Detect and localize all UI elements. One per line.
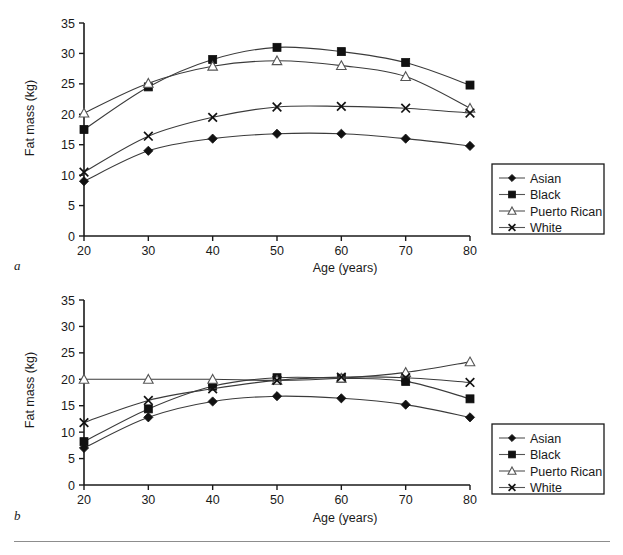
y-tick-label: 15: [61, 138, 75, 152]
cross-icon: [144, 132, 153, 141]
x-tick-label: 20: [77, 493, 91, 507]
y-tick-label: 5: [68, 452, 75, 466]
x-axis-title: Age (years): [313, 261, 378, 275]
legend-label: White: [530, 481, 562, 495]
y-tick-label: 25: [61, 77, 75, 91]
y-tick-label: 25: [61, 346, 75, 360]
series-line: [84, 133, 470, 181]
legend-label: Black: [530, 448, 561, 462]
square-filled-icon: [273, 43, 281, 51]
y-tick-label: 15: [61, 399, 75, 413]
x-tick-label: 60: [334, 244, 348, 258]
y-tick-label: 0: [68, 479, 75, 493]
y-tick-label: 10: [61, 169, 75, 183]
x-tick-label: 50: [270, 493, 284, 507]
square-filled-icon: [509, 451, 516, 458]
x-tick-label: 30: [141, 493, 155, 507]
footer-divider: [14, 541, 610, 542]
legend: AsianBlackPuerto RicanWhite: [492, 164, 604, 235]
square-filled-icon: [80, 126, 88, 134]
x-tick-label: 40: [206, 493, 220, 507]
y-tick-label: 20: [61, 373, 75, 387]
y-tick-label: 30: [61, 320, 75, 334]
x-tick-label: 70: [399, 244, 413, 258]
legend: AsianBlackPuerto RicanWhite: [492, 424, 604, 495]
x-tick-label: 30: [141, 244, 155, 258]
legend-label: Asian: [530, 432, 561, 446]
diamond-filled-icon: [337, 394, 346, 403]
legend-label: Black: [530, 188, 561, 202]
y-axis-title: Fat mass (kg): [23, 80, 37, 156]
diamond-filled-icon: [401, 134, 410, 143]
diamond-filled-icon: [465, 413, 474, 422]
panel-a: a 0510152025303520304050607080Age (years…: [0, 0, 623, 282]
chart-a: 0510152025303520304050607080Age (years)F…: [0, 0, 623, 282]
square-filled-icon: [337, 48, 345, 56]
diamond-filled-icon: [144, 146, 153, 155]
diamond-filled-icon: [272, 392, 281, 401]
diamond-filled-icon: [401, 400, 410, 409]
legend-label: Puerto Rican: [530, 205, 602, 219]
series-line: [84, 396, 470, 448]
diamond-filled-icon: [465, 141, 474, 150]
cross-icon: [144, 396, 153, 405]
y-tick-label: 0: [68, 230, 75, 244]
series-line: [84, 61, 470, 113]
figure-fat-mass-by-age: a 0510152025303520304050607080Age (years…: [0, 0, 623, 555]
x-tick-label: 80: [463, 244, 477, 258]
y-axis-title: Fat mass (kg): [23, 352, 37, 428]
y-tick-label: 10: [61, 426, 75, 440]
y-tick-label: 20: [61, 108, 75, 122]
diamond-filled-icon: [337, 129, 346, 138]
y-tick-label: 30: [61, 47, 75, 61]
diamond-filled-icon: [208, 134, 217, 143]
x-tick-label: 60: [334, 493, 348, 507]
y-tick-label: 35: [61, 294, 75, 308]
square-filled-icon: [466, 81, 474, 89]
square-filled-icon: [402, 59, 410, 67]
triangle-open-icon: [79, 108, 89, 117]
legend-label: Puerto Rican: [530, 465, 602, 479]
x-tick-label: 40: [206, 244, 220, 258]
diamond-filled-icon: [79, 177, 88, 186]
legend-label: Asian: [530, 172, 561, 186]
square-filled-icon: [80, 438, 88, 446]
square-filled-icon: [466, 395, 474, 403]
series-asian: [79, 129, 474, 186]
x-tick-label: 20: [77, 244, 91, 258]
diamond-filled-icon: [144, 413, 153, 422]
diamond-filled-icon: [272, 129, 281, 138]
square-filled-icon: [144, 405, 152, 413]
legend-label: White: [530, 221, 562, 235]
x-tick-label: 50: [270, 244, 284, 258]
square-filled-icon: [509, 191, 516, 198]
x-axis-title: Age (years): [313, 511, 378, 525]
series-asian: [79, 392, 474, 453]
diamond-filled-icon: [208, 397, 217, 406]
cross-icon: [208, 113, 217, 122]
x-tick-label: 80: [463, 493, 477, 507]
panel-b: b 0510152025303520304050607080Age (years…: [0, 282, 623, 532]
panel-letter-a: a: [14, 258, 21, 274]
panel-letter-b: b: [14, 508, 21, 524]
chart-b: 0510152025303520304050607080Age (years)F…: [0, 282, 623, 532]
triangle-open-icon: [465, 357, 475, 366]
series-line: [84, 377, 470, 442]
triangle-open-icon: [401, 72, 411, 81]
y-tick-label: 35: [61, 17, 75, 31]
x-tick-label: 70: [399, 493, 413, 507]
y-tick-label: 5: [68, 199, 75, 213]
